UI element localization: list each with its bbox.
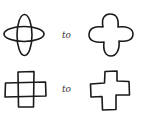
horizontal-rectangle bbox=[5, 82, 46, 97]
overlapping-ellipses-shape bbox=[4, 15, 44, 56]
overlapping-rectangles-shape bbox=[5, 72, 46, 108]
rounded-lobed-outline-shape bbox=[89, 14, 133, 56]
cross-outline-shape bbox=[91, 71, 130, 110]
diagram-canvas bbox=[0, 0, 147, 122]
connector-label-row-1: to bbox=[62, 31, 71, 40]
vertical-rectangle bbox=[18, 72, 34, 108]
horizontal-ellipse bbox=[4, 27, 44, 42]
vertical-ellipse bbox=[17, 15, 32, 56]
connector-label-row-2: to bbox=[62, 85, 71, 94]
